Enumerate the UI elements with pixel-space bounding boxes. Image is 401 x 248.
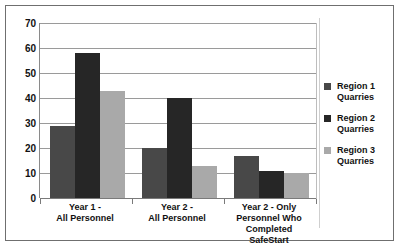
legend-divider (319, 18, 320, 228)
y-tick-30: 30 (10, 117, 36, 128)
legend-item-region-1[interactable]: Region 1 Quarries (324, 81, 394, 103)
bar-region-3-year-2 (192, 166, 217, 199)
plot-right-edge (316, 23, 317, 199)
bar-group-year-2-safestart (229, 23, 315, 198)
y-tick-60: 60 (10, 42, 36, 53)
category-label-year-1: Year 1 - All Personnel (39, 202, 131, 224)
legend-label-line: Quarries (337, 156, 394, 167)
bar-region-3-safestart (284, 173, 309, 198)
legend-label-line: Quarries (337, 92, 394, 103)
chart-frame: 70 60 50 40 30 20 10 0 (5, 5, 394, 241)
legend-label-line: Quarries (337, 124, 394, 135)
bar-region-1-year-2 (142, 148, 167, 198)
bar-region-2-safestart (259, 171, 284, 199)
category-label-line: SafeStart (223, 235, 315, 246)
legend-label-line: Region 1 (337, 81, 394, 92)
category-label-line: Year 2 - Only (223, 202, 315, 213)
category-label-line: Year 2 - (131, 202, 223, 213)
x-axis-labels: Year 1 - All Personnel Year 2 - All Pers… (39, 202, 316, 248)
y-axis: 70 60 50 40 30 20 10 0 (6, 23, 36, 198)
category-label-line: Completed (223, 224, 315, 235)
legend-swatch-icon (324, 115, 331, 122)
y-tick-0: 0 (10, 193, 36, 204)
category-label-line: Year 1 - (39, 202, 131, 213)
y-tick-70: 70 (10, 18, 36, 29)
category-label-line: All Personnel (39, 213, 131, 224)
gridline-0 (40, 198, 316, 199)
legend-swatch-icon (324, 83, 331, 90)
legend-item-region-2[interactable]: Region 2 Quarries (324, 113, 394, 135)
legend-label-line: Region 3 (337, 145, 394, 156)
y-tick-20: 20 (10, 142, 36, 153)
legend-item-region-3[interactable]: Region 3 Quarries (324, 145, 394, 167)
bar-region-1-year-1 (50, 126, 75, 199)
y-tick-40: 40 (10, 92, 36, 103)
y-tick-10: 10 (10, 167, 36, 178)
legend-label-line: Region 2 (337, 113, 394, 124)
category-label-safestart: Year 2 - Only Personnel Who Completed Sa… (223, 202, 315, 246)
category-label-line: All Personnel (131, 213, 223, 224)
y-tick-50: 50 (10, 67, 36, 78)
bar-group-year-2-all-personnel (137, 23, 223, 198)
category-label-year-2: Year 2 - All Personnel (131, 202, 223, 224)
bar-region-2-year-1 (75, 53, 100, 198)
legend: Region 1 Quarries Region 2 Quarries Regi… (324, 81, 394, 177)
category-label-line: Personnel Who (223, 213, 315, 224)
legend-swatch-icon (324, 147, 331, 154)
bar-region-1-safestart (234, 156, 259, 199)
plot-area (39, 23, 316, 198)
bar-region-3-year-1 (100, 91, 125, 199)
bar-region-2-year-2 (167, 98, 192, 198)
bar-group-year-1-all-personnel (45, 23, 131, 198)
